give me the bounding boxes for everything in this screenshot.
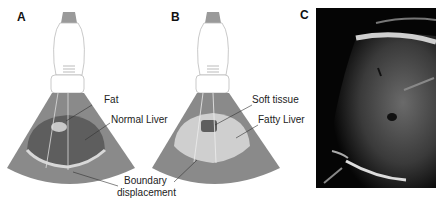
probe-a-body — [54, 23, 85, 75]
label-displacement: displacement — [117, 187, 176, 198]
ultrasound-svg — [316, 8, 436, 188]
probe-a-cap — [61, 12, 77, 23]
label-normal-liver: Normal Liver — [111, 114, 168, 125]
label-boundary: Boundary — [124, 175, 167, 186]
label-fatty-liver: Fatty Liver — [258, 114, 305, 125]
label-soft-tissue: Soft tissue — [252, 94, 299, 105]
ultrasound-image — [316, 8, 436, 188]
label-fat: Fat — [104, 94, 118, 105]
